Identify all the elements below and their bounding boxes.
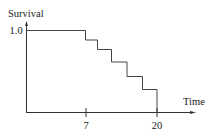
x-tick-label-7: 7 — [83, 120, 88, 131]
y-axis-arrow-icon — [25, 21, 28, 26]
x-axis-arrow-icon — [190, 111, 196, 114]
survival-chart: Survival 1.0 Time 7 20 — [0, 0, 213, 134]
x-tick-label-20: 20 — [152, 120, 163, 131]
y-axis-label: Survival — [8, 8, 44, 19]
survival-step-curve — [27, 31, 158, 113]
x-axis-label: Time — [183, 96, 205, 107]
y-tick-label-1: 1.0 — [10, 25, 23, 36]
